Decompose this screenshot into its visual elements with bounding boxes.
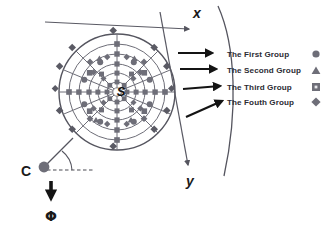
legend-label-3: The Fouth Group	[227, 98, 294, 107]
callout-arrows	[178, 53, 222, 117]
legend-label-2: The Third Group	[227, 83, 292, 92]
c-connector-line	[44, 138, 73, 167]
reference-point-group: C Φ	[21, 138, 94, 224]
figure-root: S	[0, 0, 334, 228]
axis-y-label: y	[185, 173, 195, 189]
angle-arc	[62, 151, 72, 170]
phi-label: Φ	[45, 208, 57, 224]
axis-x-label: x	[192, 5, 202, 21]
diamond-marker[interactable]	[311, 97, 320, 106]
radial-network: S	[52, 27, 175, 150]
callout-arrow-4	[186, 101, 222, 117]
legend-label-1: The Second Group	[227, 66, 301, 75]
circle-marker[interactable]	[312, 50, 319, 57]
reference-node-c	[39, 162, 50, 173]
square-marker[interactable]	[312, 83, 320, 91]
radial-network-figure: S	[0, 0, 334, 228]
callout-arrow-3	[183, 86, 220, 89]
triangle-marker[interactable]	[312, 67, 321, 75]
legend: The First Group The Second Group The Thi…	[227, 50, 321, 107]
reference-node-label: C	[21, 163, 31, 179]
legend-label-0: The First Group	[227, 50, 289, 59]
